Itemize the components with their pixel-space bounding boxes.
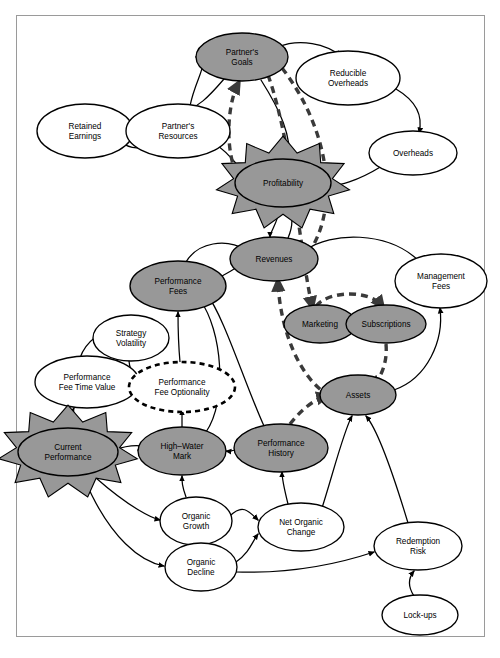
node-partners_goals[interactable]: Partner'sGoals <box>196 33 288 81</box>
node-label-strategy_volatility: Volatility <box>116 339 147 348</box>
node-label-performance_history: History <box>268 449 294 458</box>
node-label-management_fees: Management <box>417 272 466 281</box>
node-performance_history[interactable]: PerformanceHistory <box>234 424 328 472</box>
node-label-organic_growth: Growth <box>183 522 210 531</box>
node-management_fees[interactable]: ManagementFees <box>395 254 487 308</box>
edge-organic_growth-to-net_organic_change <box>230 509 258 520</box>
node-label-performance_fee_optionality: Fee Optionality <box>154 388 210 397</box>
edge-net_organic_change-to-performance_history <box>282 472 288 504</box>
node-organic_growth[interactable]: OrganicGrowth <box>160 497 232 545</box>
node-performance_fees[interactable]: PerformanceFees <box>130 261 226 311</box>
edge-current_performance-to-organic_growth <box>96 478 160 520</box>
edge-lock_ups-to-redemption_risk <box>409 571 414 596</box>
node-label-strategy_volatility: Strategy <box>116 329 147 338</box>
node-label-partners_resources: Resources <box>158 132 197 141</box>
node-label-partners_goals: Partner's <box>226 48 259 57</box>
node-label-performance_fee_time_value: Performance <box>64 373 111 382</box>
node-reducible_overheads[interactable]: ReducibleOverheads <box>296 51 400 105</box>
edge-performance_fee_optionality-to-performance_fees <box>178 312 180 362</box>
node-marketing[interactable]: Marketing <box>284 305 356 343</box>
figure-caption <box>18 646 478 657</box>
nodes-layer: RetainedEarningsPartner'sResourcesPartne… <box>0 33 487 635</box>
node-partners_resources[interactable]: Partner'sResources <box>126 104 230 158</box>
node-label-assets: Assets <box>346 391 371 400</box>
node-subscriptions[interactable]: Subscriptions <box>346 305 426 343</box>
node-label-redemption_risk: Redemption <box>396 537 441 546</box>
node-label-performance_fee_optionality: Performance <box>159 378 206 387</box>
node-profitability[interactable]: Profitability <box>217 136 350 228</box>
node-label-management_fees: Fees <box>432 282 450 291</box>
edge-redemption_risk-to-assets <box>366 416 408 523</box>
node-label-retained_earnings: Retained <box>69 122 102 131</box>
node-label-performance_fees: Performance <box>155 277 202 286</box>
node-label-current_performance: Performance <box>45 453 92 462</box>
node-label-redemption_risk: Risk <box>410 547 427 556</box>
node-label-reducible_overheads: Reducible <box>330 69 367 78</box>
node-label-high_water_mark: High–Water <box>161 442 204 451</box>
edge-management_fees-to-revenues <box>306 237 420 262</box>
edge-current_performance-to-organic_decline <box>84 478 164 566</box>
node-current_performance[interactable]: CurrentPerformance <box>0 405 137 497</box>
node-label-reducible_overheads: Overheads <box>328 79 368 88</box>
node-label-high_water_mark: Mark <box>173 452 192 461</box>
node-label-partners_goals: Goals <box>231 58 252 67</box>
node-label-overheads: Overheads <box>393 149 433 158</box>
diagram-page: RetainedEarningsPartner'sResourcesPartne… <box>0 0 500 658</box>
node-retained_earnings[interactable]: RetainedEarnings <box>37 104 133 158</box>
edge-reducible_overheads-to-overheads <box>396 89 420 133</box>
node-label-organic_decline: Decline <box>187 568 215 577</box>
node-high_water_mark[interactable]: High–WaterMark <box>138 427 226 475</box>
node-label-revenues: Revenues <box>256 255 293 264</box>
node-label-partners_resources: Partner's <box>162 122 195 131</box>
edge-net_organic_change-to-assets <box>322 416 352 508</box>
node-label-net_organic_change: Change <box>287 528 316 537</box>
node-net_organic_change[interactable]: Net OrganicChange <box>258 503 344 551</box>
node-redemption_risk[interactable]: RedemptionRisk <box>374 522 462 570</box>
node-label-organic_growth: Organic <box>182 512 211 521</box>
node-label-organic_decline: Organic <box>187 558 216 567</box>
node-label-net_organic_change: Net Organic <box>279 518 323 527</box>
node-label-marketing: Marketing <box>302 320 338 329</box>
node-organic_decline[interactable]: OrganicDecline <box>165 543 237 591</box>
node-label-lock_ups: Lock-ups <box>403 611 436 620</box>
edge-organic_growth-to-high_water_mark <box>182 476 186 497</box>
node-assets[interactable]: Assets <box>320 375 396 415</box>
node-label-retained_earnings: Earnings <box>69 132 101 141</box>
node-performance_fee_optionality[interactable]: PerformanceFee Optionality <box>129 362 235 412</box>
node-label-profitability: Profitability <box>263 179 304 188</box>
node-revenues[interactable]: Revenues <box>230 237 318 281</box>
node-label-subscriptions: Subscriptions <box>361 320 410 329</box>
node-strategy_volatility[interactable]: StrategyVolatility <box>93 315 169 361</box>
node-label-performance_fee_time_value: Fee Time Value <box>59 383 116 392</box>
node-label-performance_history: Performance <box>258 439 305 448</box>
edge-organic_decline-to-net_organic_change <box>236 534 258 562</box>
edge-marketing-to-subscriptions <box>316 294 382 306</box>
node-label-current_performance: Current <box>54 443 82 452</box>
edge-organic_decline-to-redemption_risk <box>236 552 374 572</box>
node-overheads[interactable]: Overheads <box>369 131 457 175</box>
node-performance_fee_time_value[interactable]: PerformanceFee Time Value <box>35 356 139 408</box>
node-lock_ups[interactable]: Lock-ups <box>382 595 458 635</box>
node-label-performance_fees: Fees <box>169 287 187 296</box>
diagram-canvas: RetainedEarningsPartner'sResourcesPartne… <box>0 0 500 658</box>
